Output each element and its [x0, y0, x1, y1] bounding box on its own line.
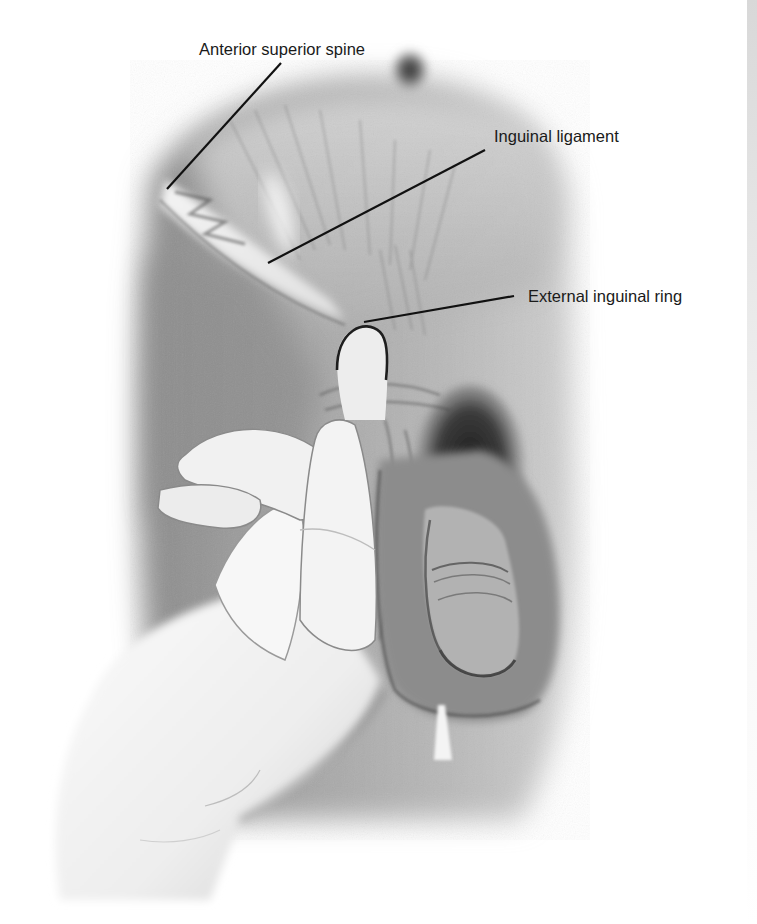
label-external-inguinal-ring: External inguinal ring — [528, 288, 682, 305]
label-anterior-superior-spine: Anterior superior spine — [199, 41, 365, 58]
page-edge-shadow — [747, 0, 757, 924]
external-ring-fingertip — [337, 326, 387, 420]
umbilicus — [390, 48, 430, 92]
anatomical-illustration: Anterior superior spine Inguinal ligamen… — [0, 0, 757, 924]
illustration-artwork — [0, 0, 757, 924]
label-inguinal-ligament: Inguinal ligament — [494, 128, 619, 145]
